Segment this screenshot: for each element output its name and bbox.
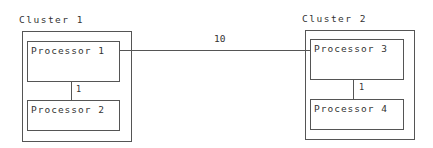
cluster-2-internal-link (353, 80, 354, 99)
cluster-1-link-weight: 1 (76, 84, 81, 94)
processor-1-label: Processor 1 (31, 45, 105, 56)
inter-cluster-link (120, 50, 311, 51)
cluster-1-label: Cluster 1 (19, 14, 84, 25)
cluster-1-internal-link (71, 82, 72, 100)
processor-4-label: Processor 4 (314, 103, 388, 114)
processor-3-label: Processor 3 (314, 43, 388, 54)
inter-cluster-link-weight: 10 (214, 33, 225, 44)
processor-2-label: Processor 2 (31, 104, 105, 115)
processor-4-node[interactable]: Processor 4 (310, 99, 404, 130)
processor-1-node[interactable]: Processor 1 (27, 41, 120, 82)
cluster-2-label: Cluster 2 (302, 13, 367, 24)
processor-2-node[interactable]: Processor 2 (27, 100, 120, 131)
processor-3-node[interactable]: Processor 3 (310, 39, 404, 80)
cluster-2-link-weight: 1 (359, 82, 364, 92)
